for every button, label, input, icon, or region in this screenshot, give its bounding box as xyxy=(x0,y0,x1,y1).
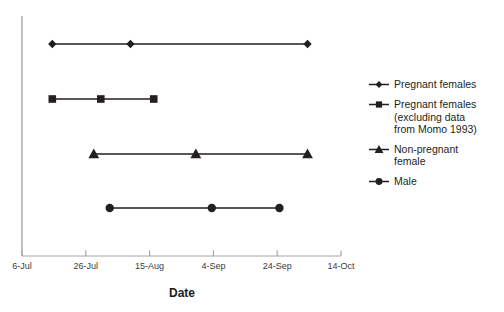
square-marker-icon xyxy=(366,98,394,111)
legend-item[interactable]: Pregnant females (excluding data from Mo… xyxy=(366,98,504,136)
x-axis-title: Date xyxy=(169,286,195,300)
chart-legend: Pregnant femalesPregnant females (exclud… xyxy=(366,78,504,195)
legend-item-label: Pregnant females (excluding data from Mo… xyxy=(394,98,477,136)
x-axis-ticks xyxy=(22,251,341,257)
circle-marker-icon xyxy=(366,175,394,188)
legend-item-label: Pregnant females xyxy=(394,78,476,91)
x-axis-tick-label: 15-Aug xyxy=(135,261,164,271)
legend-item[interactable]: Non-pregnant female xyxy=(366,143,504,168)
legend-item-label: Non-pregnant female xyxy=(394,143,458,168)
triangle-marker-icon xyxy=(366,143,394,156)
x-axis-tick-label: 4-Sep xyxy=(201,261,225,271)
legend-item-label: Male xyxy=(394,175,417,188)
data-point-marker xyxy=(97,95,105,103)
data-point-marker xyxy=(106,204,114,212)
legend-item[interactable]: Male xyxy=(366,175,504,188)
chart-container: 6-Jul26-Jul15-Aug4-Sep24-Sep14-Oct Date … xyxy=(0,0,504,312)
x-axis-tick-label: 6-Jul xyxy=(12,261,32,271)
series-layer xyxy=(48,40,313,212)
data-point-marker xyxy=(303,40,311,48)
series-group xyxy=(88,149,313,159)
data-point-marker xyxy=(126,40,134,48)
series-group xyxy=(49,95,158,103)
legend-item[interactable]: Pregnant females xyxy=(366,78,504,91)
data-point-marker xyxy=(208,204,216,212)
series-group xyxy=(48,40,312,48)
series-group xyxy=(106,204,284,212)
x-axis-tick-label: 26-Jul xyxy=(74,261,99,271)
data-point-marker xyxy=(275,204,283,212)
x-axis-tick-label: 14-Oct xyxy=(327,261,354,271)
data-point-marker xyxy=(48,40,56,48)
diamond-marker-icon xyxy=(366,78,394,91)
x-axis-tick-label: 24-Sep xyxy=(263,261,292,271)
data-point-marker xyxy=(150,95,158,103)
data-point-marker xyxy=(49,95,57,103)
